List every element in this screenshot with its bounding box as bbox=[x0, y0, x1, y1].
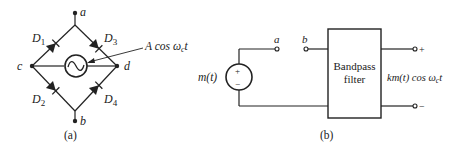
diode-d3-label: D3 bbox=[103, 31, 118, 47]
node-a-label: a bbox=[80, 5, 86, 19]
diode-d4-label: D4 bbox=[103, 92, 118, 108]
filter-label-line2: filter bbox=[344, 73, 366, 85]
source-plus-sign: + bbox=[235, 66, 240, 76]
terminal-b-label: b bbox=[302, 33, 308, 45]
node-c-dot bbox=[30, 64, 34, 68]
node-a-dot bbox=[73, 11, 77, 15]
diode-d2-label: D2 bbox=[31, 92, 45, 108]
message-source-label: m(t) bbox=[198, 71, 217, 84]
circuit-figure: a c d b D1 D3 D2 D4 A cos ωct (a) + − Ba… bbox=[0, 0, 463, 149]
arrowhead-icon bbox=[87, 58, 95, 63]
filter-label-line1: Bandpass bbox=[333, 60, 375, 72]
node-c-label: c bbox=[17, 59, 23, 73]
terminal-b-icon bbox=[304, 47, 308, 51]
output-minus-terminal-icon bbox=[413, 104, 417, 108]
caption-a: (a) bbox=[64, 129, 77, 142]
node-d-dot bbox=[115, 64, 119, 68]
terminal-a-icon bbox=[275, 47, 279, 51]
terminal-a-label: a bbox=[274, 33, 280, 45]
caption-b: (b) bbox=[320, 129, 334, 142]
diode-d1-label: D1 bbox=[31, 31, 45, 47]
source-minus-sign: − bbox=[235, 79, 240, 89]
output-label: km(t) cos ωct bbox=[387, 72, 443, 85]
node-b-label: b bbox=[80, 114, 86, 128]
output-minus-label: − bbox=[419, 101, 425, 112]
node-d-label: d bbox=[124, 59, 131, 73]
output-plus-label: + bbox=[419, 44, 425, 55]
source-a-label: A cos ωct bbox=[144, 40, 189, 54]
node-b-dot bbox=[73, 119, 77, 123]
output-plus-terminal-icon bbox=[413, 47, 417, 51]
